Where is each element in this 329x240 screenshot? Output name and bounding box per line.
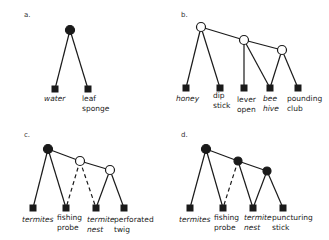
- leaf-node: [267, 85, 274, 92]
- leaf-label: termite: [87, 215, 115, 224]
- leaf-label: perforated: [114, 215, 154, 224]
- leaf-node: [183, 85, 190, 92]
- leaf-label: twig: [114, 225, 130, 234]
- leaf-label: open: [237, 105, 256, 114]
- leaf-label: fishing: [57, 213, 82, 222]
- leaf-label: termite: [244, 213, 272, 222]
- panel-a-edges: [55, 30, 88, 89]
- leaf-node: [280, 205, 287, 212]
- leaf-node: [30, 205, 37, 212]
- dashed-edge: [66, 161, 80, 208]
- leaf-label: termites: [22, 215, 54, 224]
- tool-use-diagrams: [0, 0, 329, 240]
- leaf-label: probe: [57, 223, 79, 232]
- leaf-label: bee: [263, 94, 277, 103]
- leaf-label: stick: [272, 223, 289, 232]
- open-node: [197, 23, 206, 32]
- filled-node: [234, 157, 242, 165]
- panel-label-c: c.: [24, 131, 30, 139]
- leaf-label: water: [44, 94, 65, 103]
- leaf-label: pounding: [287, 94, 322, 103]
- leaf-node: [63, 205, 70, 212]
- leaf-label: fishing: [214, 213, 239, 222]
- leaf-node: [121, 205, 128, 212]
- leaf-node: [241, 85, 248, 92]
- leaf-label: sponge: [82, 104, 109, 113]
- leaf-label: stick: [213, 101, 230, 110]
- leaf-node: [187, 205, 194, 212]
- panel-label-b: b.: [181, 11, 188, 19]
- open-node: [106, 166, 115, 175]
- leaf-label: nest: [244, 223, 260, 232]
- open-node: [76, 157, 85, 166]
- leaf-label: hive: [263, 104, 279, 113]
- leaf-label: probe: [214, 223, 236, 232]
- dashed-edge: [80, 161, 96, 208]
- filled-node: [66, 26, 75, 35]
- leaf-label: club: [287, 104, 303, 113]
- leaf-label: dip: [213, 91, 225, 100]
- filled-node: [44, 145, 53, 154]
- leaf-node: [93, 205, 100, 212]
- filled-node: [202, 145, 211, 154]
- leaf-label: leaf: [82, 94, 96, 103]
- panel-label-d: d.: [181, 131, 188, 139]
- dashed-edge: [223, 161, 238, 208]
- open-node: [240, 36, 249, 45]
- leaf-node: [52, 86, 59, 93]
- panel-label-a: a.: [24, 11, 31, 19]
- leaf-label: honey: [176, 94, 199, 103]
- leaf-label: termites: [179, 215, 211, 224]
- leaf-label: lever: [237, 95, 256, 104]
- leaf-label: nest: [87, 225, 103, 234]
- leaf-node: [85, 86, 92, 93]
- leaf-label: puncturing: [272, 213, 313, 222]
- open-node: [278, 46, 287, 55]
- leaf-node: [250, 205, 257, 212]
- leaf-node: [295, 85, 302, 92]
- leaf-node: [220, 205, 227, 212]
- filled-node: [263, 167, 271, 175]
